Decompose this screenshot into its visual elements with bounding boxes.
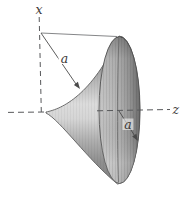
- x-axis: [39, 17, 41, 112]
- z-axis-label: z: [172, 102, 180, 117]
- horn-surface-diagram: a a x z: [0, 0, 186, 198]
- reference-line-to-bell-top: [41, 33, 117, 37]
- figure-canvas: a a x z: [0, 0, 186, 198]
- slant-radius-arrow: a: [41, 33, 80, 89]
- bell-radius-label: a: [124, 117, 131, 132]
- x-axis-label: x: [35, 2, 42, 17]
- slant-radius-label: a: [61, 51, 68, 66]
